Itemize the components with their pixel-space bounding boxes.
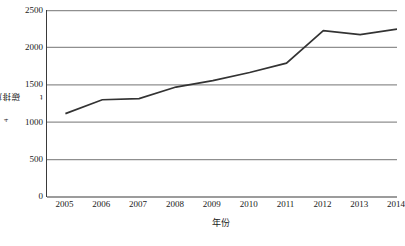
y-tick-1500: 1500 [25, 80, 43, 89]
y-tick-2500: 2500 [25, 6, 43, 15]
x-tick-2007: 2007 [129, 199, 147, 210]
y-tick-2000: 2000 [25, 43, 43, 52]
x-tick-2005: 2005 [55, 199, 73, 210]
x-tick-2012: 2012 [313, 199, 331, 210]
x-tick-2009: 2009 [203, 199, 221, 210]
x-tick-2006: 2006 [92, 199, 110, 210]
y-tick-500: 500 [30, 155, 44, 164]
x-axis-title: 年份 [46, 216, 396, 229]
x-axis-tick-labels: 2005 2006 2007 2008 2009 2010 2011 2012 … [46, 199, 396, 215]
plot-area [46, 10, 397, 197]
x-tick-2010: 2010 [240, 199, 258, 210]
y-tick-1000: 1000 [25, 118, 43, 127]
x-tick-2011: 2011 [277, 199, 295, 210]
y-axis-tick-labels: 2500 2000 1500 1000 500 [14, 0, 46, 205]
x-tick-2014: 2014 [387, 199, 405, 210]
y-tick-0: 0 [33, 192, 43, 201]
series-line-carbon-emissions [65, 29, 397, 114]
x-tick-2008: 2008 [166, 199, 184, 210]
y-axis-title-exponent: 4 [3, 119, 9, 122]
y-axis-title: 碳排放量/104t [0, 0, 14, 197]
plot-svg [47, 10, 397, 198]
x-tick-2013: 2013 [350, 199, 368, 210]
